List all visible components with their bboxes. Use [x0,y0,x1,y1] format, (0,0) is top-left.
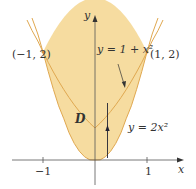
curve-lower-label: y = 2x² [128,122,168,133]
curve-upper-label: y = 1 + x² [97,44,153,55]
tick-label-neg1: −1 [35,166,51,177]
plot-canvas [0,0,196,189]
point-left-label: (−1, 2) [12,49,51,60]
x-axis-arrow-icon [177,158,184,163]
tick-label-pos1: 1 [145,166,152,177]
y-axis-label: y [84,10,90,21]
x-axis-label: x [178,164,184,175]
region-diagram: y x −1 1 (−1, 2) (1, 2) y = 1 + x² y = 2… [0,0,196,189]
region-label: D [75,113,85,125]
point-right-label: (1, 2) [150,49,180,60]
